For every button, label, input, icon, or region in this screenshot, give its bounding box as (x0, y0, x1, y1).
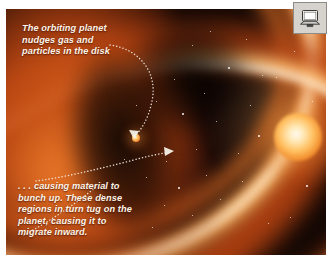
arrow-bottom-to-disk (36, 152, 170, 181)
computer-icon (299, 8, 321, 28)
illustration-plate: The orbiting planet nudges gas and parti… (6, 9, 326, 255)
arrow-top-head (129, 130, 139, 139)
page-margin-right (326, 0, 333, 261)
page-margin-top (0, 0, 333, 9)
page-margin-bottom (0, 255, 333, 261)
caption-bottom: . . . causing material to bunch up. Thes… (18, 181, 142, 239)
page-margin-left (0, 0, 6, 261)
screenshot-root: The orbiting planet nudges gas and parti… (0, 0, 333, 261)
arrow-bottom-head (164, 147, 174, 156)
computer-icon-badge[interactable] (293, 2, 327, 34)
arrow-top-to-planet (110, 45, 153, 137)
caption-top: The orbiting planet nudges gas and parti… (22, 23, 130, 58)
